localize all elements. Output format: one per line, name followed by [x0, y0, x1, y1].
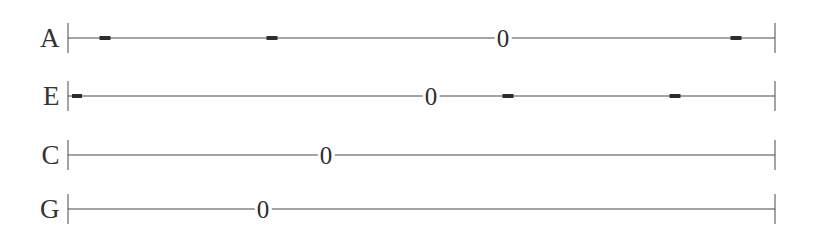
zero-marker: 0: [255, 197, 272, 222]
track-label-e: E: [43, 83, 60, 110]
zero-marker: 0: [318, 143, 335, 168]
axis-line: [68, 209, 775, 210]
axis-start-tick: [68, 81, 69, 111]
axis-end-tick: [775, 23, 776, 53]
axis-start-tick: [68, 194, 69, 224]
dash-marker: [503, 94, 514, 98]
track-label-g: G: [40, 196, 60, 223]
dash-marker: [72, 94, 82, 98]
zero-marker: 0: [495, 26, 512, 51]
dash-marker: [670, 94, 681, 98]
track-label-a: A: [40, 25, 60, 52]
axis-start-tick: [68, 140, 69, 170]
axis-end-tick: [775, 140, 776, 170]
axis-line: [68, 38, 775, 39]
axis-end-tick: [775, 194, 776, 224]
zero-marker: 0: [423, 84, 440, 109]
dash-marker: [267, 36, 278, 40]
axis-line: [68, 155, 775, 156]
axis-start-tick: [68, 23, 69, 53]
dash-marker: [100, 36, 111, 40]
track-label-c: C: [41, 142, 60, 169]
linkage-line-diagram: A0E0C0G0: [0, 0, 813, 243]
dash-marker: [731, 36, 742, 40]
axis-end-tick: [775, 81, 776, 111]
